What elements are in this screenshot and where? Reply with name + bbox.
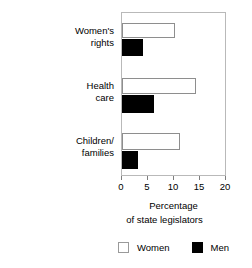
white-square-swatch-icon (118, 242, 129, 253)
x-tick-label-15: 15 (187, 181, 211, 192)
chart-legend: Women Men (118, 242, 229, 253)
legend-entry-men: Men (192, 242, 229, 253)
legend-label-women: Women (137, 242, 170, 253)
x-tick-label-20: 20 (213, 181, 237, 192)
category-label-health-care: Health care (24, 80, 114, 103)
x-tick-mark-10 (173, 176, 174, 180)
bar-men-womens-rights (122, 39, 143, 56)
x-tick-label-5: 5 (135, 181, 159, 192)
x-axis-title: Percentage of state legislators (121, 199, 226, 227)
x-tick-mark-5 (147, 176, 148, 180)
x-tick-mark-20 (225, 176, 226, 180)
bar-chart-figure: Women's rights Health care Children/ fam… (0, 0, 252, 268)
bar-men-children-families (122, 151, 138, 169)
x-axis-title-line1: Percentage (121, 199, 226, 213)
bar-women-children-families (122, 133, 180, 150)
bar-men-health-care (122, 95, 154, 113)
plot-area (121, 12, 226, 176)
black-square-swatch-icon (192, 242, 203, 253)
legend-entry-women: Women (118, 242, 170, 253)
x-tick-mark-0 (121, 176, 122, 180)
x-axis-title-line2: of state legislators (103, 213, 226, 227)
bar-women-health-care (122, 78, 196, 94)
x-tick-label-10: 10 (161, 181, 185, 192)
category-label-children-families: Children/ families (24, 135, 114, 158)
bar-women-womens-rights (122, 23, 175, 38)
legend-label-men: Men (211, 242, 229, 253)
category-label-womens-rights: Women's rights (24, 25, 114, 48)
x-tick-mark-15 (199, 176, 200, 180)
x-tick-label-0: 0 (109, 181, 133, 192)
